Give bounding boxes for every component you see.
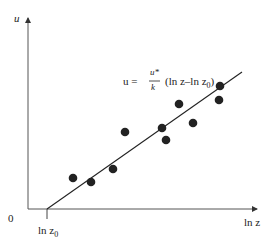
equation-rhs: (ln z–ln z0) <box>165 75 214 90</box>
equation-rhs-text: (ln z–ln z <box>165 75 207 87</box>
data-point <box>158 124 167 133</box>
x-tick-subscript: 0 <box>54 230 58 239</box>
x-axis-label: ln z <box>244 216 260 228</box>
x-tick-label-text: ln z <box>38 224 54 236</box>
data-point <box>87 178 96 187</box>
figure-canvas <box>0 0 271 244</box>
fit-line <box>47 72 242 209</box>
x-axis-label-text: ln z <box>244 216 260 228</box>
data-point <box>215 96 224 105</box>
data-points <box>69 82 225 187</box>
origin-label: 0 <box>8 212 14 224</box>
equation-denominator: k <box>151 82 155 92</box>
equation-numerator: u* <box>150 67 159 77</box>
y-axis-label: u <box>14 12 20 24</box>
data-point <box>162 136 171 145</box>
data-point <box>121 128 130 137</box>
data-point <box>175 100 184 109</box>
equation-lhs: u = <box>123 75 137 87</box>
data-point <box>69 174 78 183</box>
equation-rhs-close: ) <box>211 75 215 87</box>
data-point <box>216 82 225 91</box>
data-point <box>189 119 198 128</box>
x-tick-label: ln z0 <box>38 224 58 239</box>
data-point <box>109 165 118 174</box>
